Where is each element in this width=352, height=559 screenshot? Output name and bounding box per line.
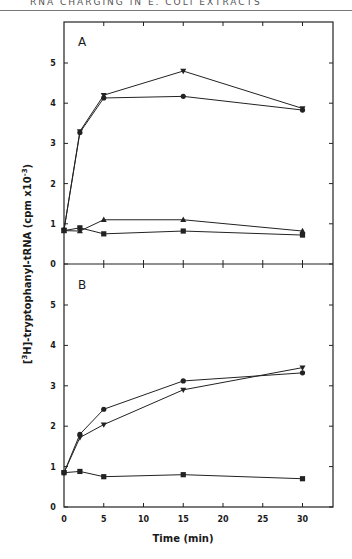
y-tick-label: 2	[50, 180, 56, 189]
x-tick-label: 15	[178, 515, 190, 524]
series-square-panel-b	[61, 469, 305, 481]
x-axis-title: Time (min)	[152, 533, 213, 544]
x-tick-label: 20	[217, 515, 229, 524]
figure-chart: 012345012345051015202530 A B Time (min) …	[0, 0, 352, 559]
marker-square	[77, 469, 82, 474]
marker-circle	[181, 378, 186, 383]
panel-label-b: B	[78, 278, 86, 292]
data-series	[61, 69, 306, 481]
series-square-panel-a	[61, 225, 305, 237]
series-inverted-triangle-panel-a	[61, 69, 306, 233]
y-tick-label: 1	[50, 463, 56, 472]
marker-circle	[101, 407, 106, 412]
y-tick-label: 4	[50, 99, 56, 108]
y-tick-label: 5	[50, 301, 56, 310]
marker-square	[101, 231, 106, 236]
marker-square	[61, 470, 66, 475]
x-tick-label: 5	[101, 515, 107, 524]
y-axis-title: [3H]-tryptophanyl-tRNA (cpm x10-3)	[21, 164, 33, 364]
marker-circle	[300, 107, 305, 112]
y-tick-label: 1	[50, 220, 56, 229]
x-tick-label: 10	[138, 515, 150, 524]
marker-circle	[300, 370, 305, 375]
marker-square	[181, 472, 186, 477]
x-tick-label: 0	[61, 515, 67, 524]
marker-square	[300, 232, 305, 237]
y-tick-label: 3	[50, 382, 56, 391]
marker-square	[101, 474, 106, 479]
x-tick-label: 25	[257, 515, 269, 524]
y-tick-label: 5	[50, 59, 56, 68]
y-tick-label: 4	[50, 341, 56, 350]
marker-inverted-triangle	[101, 422, 107, 427]
marker-square	[77, 225, 82, 230]
marker-square	[61, 228, 66, 233]
y-tick-label: 0	[50, 260, 56, 269]
marker-square	[300, 476, 305, 481]
marker-circle	[181, 94, 186, 99]
series-circle-panel-a	[61, 94, 305, 233]
marker-square	[181, 228, 186, 233]
panel-label-a: A	[78, 35, 87, 49]
marker-circle	[101, 95, 106, 100]
y-tick-label: 3	[50, 139, 56, 148]
series-circle-panel-b	[61, 370, 305, 475]
x-tick-label: 30	[297, 515, 309, 524]
series-line	[64, 96, 303, 229]
marker-circle	[77, 130, 82, 135]
y-tick-label: 2	[50, 422, 56, 431]
y-tick-label: 0	[50, 503, 56, 512]
